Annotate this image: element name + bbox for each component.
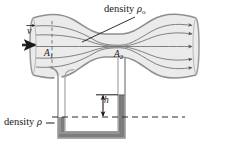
density-rho-label: density ρ (4, 117, 42, 128)
figure-canvas: density ρo density ρ A1 A2 h v (0, 0, 228, 155)
velocity-label: v (27, 26, 31, 36)
area-inlet-label: A1 (44, 49, 53, 60)
area-inlet-subscript: 1 (50, 52, 54, 60)
u-tube-inner-wall (65, 70, 118, 132)
manometer-fluid-highlight (60, 117, 120, 133)
velocity-symbol: v (27, 25, 31, 36)
area-throat-subscript: 2 (120, 53, 124, 61)
manometer-fluid (60, 95, 122, 135)
height-difference-label: h (104, 96, 109, 106)
density-rho0-label: density ρo (104, 4, 146, 16)
venturi-meter-diagram (0, 0, 228, 155)
density-rho0-subscript: o (142, 8, 146, 16)
manometer-fluid-column (62, 95, 122, 135)
density-rho-symbol: ρ (37, 116, 42, 127)
density-rho0-word: density (104, 3, 134, 14)
density-rho-word: density (4, 116, 34, 127)
area-throat-label: A2 (114, 50, 123, 61)
u-tube-interior (58, 70, 125, 138)
u-tube-outer-wall (58, 70, 125, 138)
